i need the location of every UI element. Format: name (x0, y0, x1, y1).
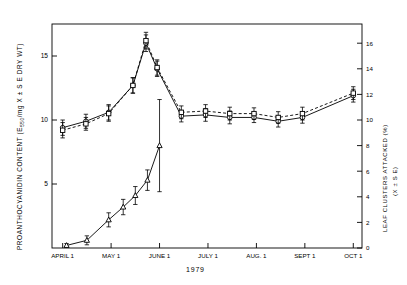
y-tick-label-right: 4 (366, 193, 370, 200)
x-axis-title: 1979 (186, 266, 205, 273)
y-tick-label-right: 14 (366, 65, 373, 72)
y-axis-left-title: PROANTHOCYANIDIN CONTENT (E550/mg X ± S … (16, 43, 25, 250)
x-axis-title-text: 1979 (186, 266, 205, 273)
data-point-leaf-clusters-attacked (145, 177, 150, 182)
y-axis-left-title-part2: /mg X ± S E DRY WT) (16, 43, 23, 117)
data-point-proanthocyanidin-dashed (228, 111, 232, 115)
data-point-proanthocyanidin-dashed (84, 122, 88, 126)
data-point-proanthocyanidin-dashed (131, 83, 135, 87)
y-tick-label-left: 10 (41, 116, 49, 123)
y-axis-right-subtitle-text: (X ± S E) (392, 166, 398, 196)
x-tick-label: SEPT 1 (294, 252, 316, 259)
y-tick-label-left: 5 (44, 180, 48, 187)
data-point-proanthocyanidin-dashed (203, 109, 207, 113)
data-point-proanthocyanidin-dashed (106, 111, 110, 115)
y-tick-label-right: 12 (366, 91, 373, 98)
y-tick-label-right: 6 (366, 168, 370, 175)
x-tick-label: OCT 1 (344, 252, 363, 259)
y-tick-label-right: 10 (366, 116, 373, 123)
data-point-proanthocyanidin-dashed (300, 111, 304, 115)
x-tick-label: MAY 1 (102, 252, 121, 259)
chart-figure: 510150246810121416APRIL 1MAY 1JUNE 1JULY… (0, 0, 407, 285)
y-tick-label-left: 15 (41, 52, 49, 59)
data-point-proanthocyanidin-dashed (144, 38, 148, 42)
x-tick-label: APRIL 1 (51, 252, 74, 259)
data-point-proanthocyanidin-dashed (351, 91, 355, 95)
y-tick-label-right: 8 (366, 142, 370, 149)
y-tick-label-right: 2 (366, 219, 370, 226)
y-tick-label-right: 0 (366, 244, 370, 251)
data-point-proanthocyanidin-dashed (60, 128, 64, 132)
series-line-proanthocyanidin-dashed (63, 41, 354, 131)
y-axis-right-title-text: LEAF CLUSTERS ATTACKED (%) (382, 124, 388, 232)
data-point-proanthocyanidin-dashed (276, 115, 280, 119)
plot-frame (52, 24, 362, 248)
x-tick-label: JUNE 1 (149, 252, 171, 259)
y-axis-right-title: LEAF CLUSTERS ATTACKED (%) (382, 124, 388, 232)
x-tick-label: AUG. 1 (246, 252, 267, 259)
y-axis-left-title-sub: 550 (20, 117, 25, 126)
data-point-proanthocyanidin-dashed (252, 111, 256, 115)
data-point-leaf-clusters-attacked (157, 143, 162, 148)
y-tick-label-right: 16 (366, 40, 373, 47)
data-point-proanthocyanidin-dashed (155, 65, 159, 69)
chart-canvas: 510150246810121416APRIL 1MAY 1JUNE 1JULY… (0, 0, 407, 285)
y-axis-right-subtitle: (X ± S E) (392, 166, 398, 196)
data-point-proanthocyanidin-dashed (179, 110, 183, 114)
y-axis-left-title-part1: PROANTHOCYANIDIN CONTENT (E (16, 127, 23, 250)
series-line-leaf-clusters-attacked (67, 146, 160, 246)
x-tick-label: JULY 1 (198, 252, 218, 259)
